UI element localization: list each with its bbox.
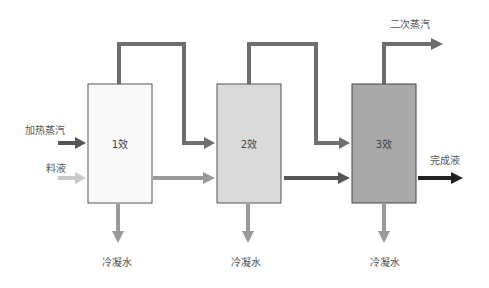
condensate-arrow-2 [242,204,254,243]
secondary-steam-arrow [384,38,443,84]
condensate-arrow-3 [378,204,390,243]
effect-3-label: 3效 [352,136,416,151]
effect-1-label: 1效 [88,136,152,151]
condensate-arrow-1 [112,204,124,243]
product-arrow [418,172,463,184]
secondary-steam-label: 二次蒸汽 [390,16,430,31]
feed-label: 料液 [46,160,66,175]
heating-steam-arrow [58,137,86,149]
liquor-arrow-1-to-2 [153,172,215,184]
effect-2-label: 2效 [217,136,281,151]
condensate-label-1: 冷凝水 [102,254,132,269]
condensate-label-3: 冷凝水 [370,254,400,269]
liquor-arrow-2-to-3 [284,172,350,184]
product-label: 完成液 [430,152,460,167]
heating-steam-label: 加热蒸汽 [25,122,65,137]
condensate-label-2: 冷凝水 [231,254,261,269]
